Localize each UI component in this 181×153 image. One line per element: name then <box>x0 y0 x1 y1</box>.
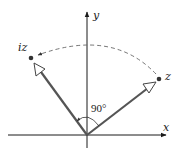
rotation-diagram: y x z iz 90° <box>0 0 181 153</box>
y-axis-label: y <box>92 9 100 22</box>
z-label: z <box>164 70 171 83</box>
x-axis-label: x <box>163 121 170 134</box>
diagram-canvas: y x z iz 90° <box>0 0 181 153</box>
vector-iz <box>29 56 87 135</box>
point-z <box>157 77 162 82</box>
angle-label: 90° <box>91 102 106 114</box>
iz-label: iz <box>18 41 28 54</box>
point-iz <box>29 56 34 61</box>
rotation-arc <box>38 45 156 74</box>
